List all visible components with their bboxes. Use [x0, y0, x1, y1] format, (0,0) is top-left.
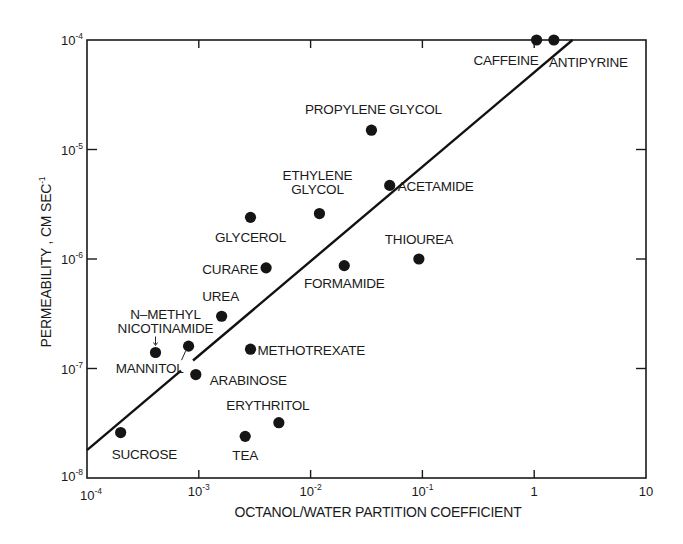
- x-tick-label: 10: [639, 484, 653, 499]
- y-tick-label: 10-7: [61, 360, 83, 377]
- x-tick-label: 10-1: [411, 482, 433, 499]
- point-label-urea: UREA: [202, 289, 239, 304]
- data-point-arabinose: [190, 369, 201, 380]
- point-label-methotrexate: METHOTREXATE: [257, 343, 365, 358]
- point-label-thiourea: THIOUREA: [385, 232, 453, 247]
- y-tick-label: 10-8: [61, 467, 83, 484]
- point-label-mannitol: MANNITOL: [116, 361, 185, 376]
- y-tick-label: 10-6: [61, 250, 83, 267]
- point-label-erythritol: ERYTHRITOL: [226, 398, 310, 413]
- svg-text:PERMEABILITY , CM SEC-1: PERMEABILITY , CM SEC-1: [37, 176, 54, 347]
- data-point-mannitol: [183, 341, 194, 352]
- data-point-acetamide: [384, 180, 395, 191]
- x-tick-label: 10-4: [80, 486, 102, 503]
- data-point-methotrexate: [245, 344, 256, 355]
- data-point-n-methyl-nicotinamide: [150, 347, 161, 358]
- point-label-propylene-glycol: PROPYLENE GLYCOL: [305, 102, 443, 117]
- y-axis-title-exponent: -1: [37, 176, 47, 184]
- point-label-ethylene-glycol: ETHYLENE: [283, 168, 353, 183]
- data-point-antipyrine: [548, 34, 559, 45]
- point-label-caffeine: CAFFEINE: [473, 53, 538, 68]
- data-point-glycerol: [245, 212, 256, 223]
- point-label-curare: CURARE: [202, 262, 258, 277]
- data-point-ethylene-glycol: [314, 208, 325, 219]
- data-point-curare: [261, 262, 272, 273]
- data-point-sucrose: [115, 427, 126, 438]
- point-label-tea: TEA: [232, 448, 258, 463]
- mannitol-leader-line: [182, 351, 186, 360]
- data-point-urea: [216, 311, 227, 322]
- y-axis-title-text: PERMEABILITY , CM SEC: [38, 184, 54, 348]
- point-label-arabinose: ARABINOSE: [210, 373, 287, 388]
- x-tick-label: 1: [531, 484, 538, 499]
- y-tick-label: 10-5: [61, 141, 83, 158]
- data-point-tea: [240, 431, 251, 442]
- point-label-acetamide: ACETAMIDE: [398, 179, 474, 194]
- fit-line-segment: [87, 371, 181, 450]
- data-point-caffeine: [531, 34, 542, 45]
- point-label-sucrose: SUCROSE: [112, 447, 178, 462]
- data-point-thiourea: [413, 253, 424, 264]
- point-label-n-methyl-nicotinamide: NICOTINAMIDE: [118, 321, 214, 336]
- data-point-formamide: [339, 260, 350, 271]
- permeability-vs-partition-chart: 10-410-310-210-111010-410-510-610-710-8 …: [0, 0, 683, 544]
- point-label-formamide: FORMAMIDE: [304, 276, 385, 291]
- x-axis-title: OCTANOL/WATER PARTITION COEFFICIENT: [234, 504, 522, 520]
- point-label-antipyrine: ANTIPYRINE: [549, 55, 628, 70]
- point-label-ethylene-glycol: GLYCOL: [291, 182, 344, 197]
- x-tick-label: 10-3: [188, 482, 210, 499]
- point-label-n-methyl-nicotinamide: N–METHYL: [130, 307, 201, 322]
- data-point-propylene-glycol: [366, 125, 377, 136]
- data-point-erythritol: [273, 417, 284, 428]
- x-tick-label: 10-2: [300, 482, 322, 499]
- point-labels: CAFFEINEANTIPYRINEPROPYLENE GLYCOLACETAM…: [112, 53, 628, 463]
- point-label-glycerol: GLYCEROL: [215, 230, 287, 245]
- fit-line-segment: [193, 40, 572, 361]
- y-axis-title: PERMEABILITY , CM SEC-1: [37, 176, 54, 347]
- y-tick-label: 10-4: [61, 31, 83, 48]
